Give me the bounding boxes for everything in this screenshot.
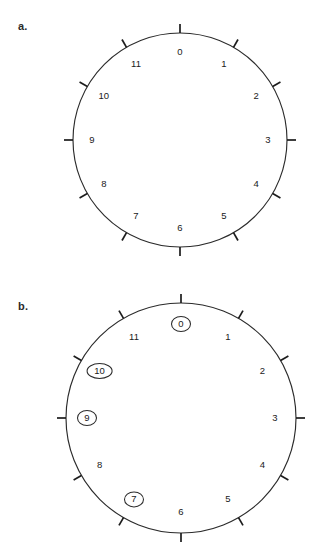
hour-tick-7 <box>119 518 124 526</box>
hour-label-9: 9 <box>84 412 89 423</box>
hour-label-3: 3 <box>272 412 277 423</box>
hour-tick-5 <box>239 518 244 526</box>
hour-label-11: 11 <box>129 331 139 342</box>
hour-tick-1 <box>239 311 244 319</box>
clock-dial-b: 01234567891011 <box>0 0 316 553</box>
hour-tick-10 <box>74 356 82 361</box>
hour-label-0: 0 <box>178 318 183 329</box>
dial-outline <box>66 303 296 533</box>
hour-label-1: 1 <box>225 331 230 342</box>
hour-label-2: 2 <box>260 365 265 376</box>
hour-label-5: 5 <box>225 493 230 504</box>
hour-tick-4 <box>281 476 289 481</box>
hour-tick-8 <box>74 476 82 481</box>
hour-label-10: 10 <box>94 365 105 376</box>
hour-label-6: 6 <box>178 506 183 517</box>
hour-tick-2 <box>281 356 289 361</box>
hour-label-4: 4 <box>260 459 265 470</box>
hour-tick-11 <box>119 311 124 319</box>
hour-label-7: 7 <box>131 493 136 504</box>
hour-label-8: 8 <box>97 459 102 470</box>
